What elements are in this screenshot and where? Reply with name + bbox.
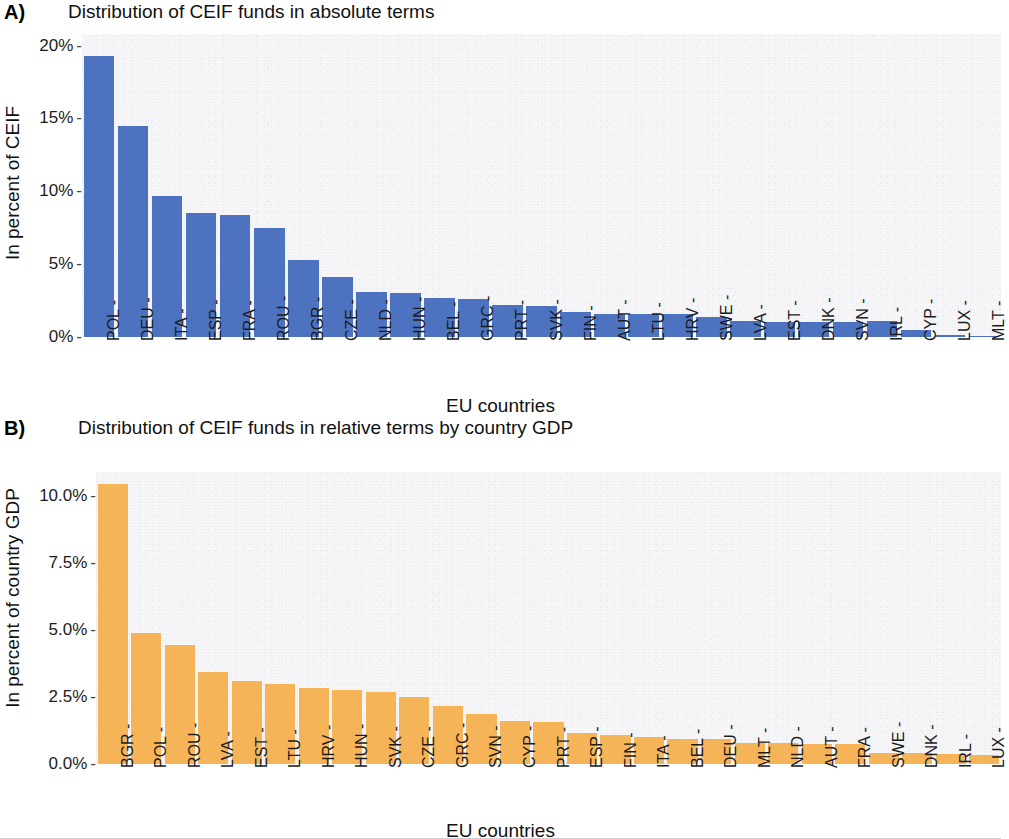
x-tick-label: FIN -	[622, 768, 658, 786]
panel-b-x-axis-label: EU countries	[0, 820, 1001, 839]
x-tick-label: IRL -	[957, 768, 991, 786]
panel-b-plot: In percent of country GDP 0.0%-2.5%-5.0%…	[0, 448, 1001, 839]
x-tick-label: LUX -	[990, 768, 1009, 786]
panel-b-y-axis-label: In percent of country GDP	[0, 448, 26, 748]
x-tick-label: LTU -	[650, 341, 689, 359]
y-tick-label: 5.0%-	[49, 620, 96, 640]
x-tick-label: ITA -	[173, 341, 206, 359]
panel-a-title: Distribution of CEIF funds in absolute t…	[68, 1, 434, 23]
bar	[98, 484, 128, 764]
panel-a-x-axis-label: EU countries	[0, 395, 1001, 417]
panel-a: A) Distribution of CEIF funds in absolut…	[0, 0, 1001, 418]
x-tick-label: MLT -	[990, 341, 1009, 359]
panel-b-axes: 0.0%-2.5%-5.0%-7.5%-10.0%- BGR -POL -ROU…	[26, 448, 1001, 839]
panel-b-header: B) Distribution of CEIF funds in relativ…	[0, 416, 1001, 442]
y-tick-label: 0.0%-	[49, 754, 96, 774]
panel-b-bars	[96, 472, 1001, 764]
bar	[84, 56, 115, 337]
panel-a-y-axis-label: In percent of CEIF	[0, 28, 26, 338]
panel-a-plot: In percent of CEIF 0%-5%-10%-15%-20%- PO…	[0, 26, 1001, 418]
panel-b-title: Distribution of CEIF funds in relative t…	[78, 417, 573, 439]
y-tick-label: 0%-	[49, 327, 82, 347]
panel-a-bars	[82, 34, 1001, 337]
y-tick-label: 20%-	[39, 36, 82, 56]
panel-a-header: A) Distribution of CEIF funds in absolut…	[0, 0, 1001, 26]
x-tick-label: LVA -	[752, 341, 789, 359]
panel-b-tag: B)	[4, 417, 25, 440]
panel-a-axes: 0%-5%-10%-15%-20%- POL -DEU -ITA -ESP -F…	[26, 26, 1001, 418]
y-tick-label: 10%-	[39, 181, 82, 201]
y-tick-label: 7.5%-	[49, 553, 96, 573]
y-tick-label: 2.5%-	[49, 687, 96, 707]
figure-bottom-edge	[0, 838, 1001, 839]
y-tick-label: 5%-	[49, 254, 82, 274]
x-tick-label: FIN -	[582, 341, 618, 359]
y-tick-label: 15%-	[39, 108, 82, 128]
x-tick-label: ITA -	[655, 768, 688, 786]
x-tick-label: IRL -	[888, 341, 922, 359]
panel-b: B) Distribution of CEIF funds in relativ…	[0, 416, 1001, 839]
y-tick-label: 10.0%-	[39, 486, 96, 506]
x-tick-label: LVA -	[219, 768, 256, 786]
panel-a-tag: A)	[4, 1, 25, 24]
